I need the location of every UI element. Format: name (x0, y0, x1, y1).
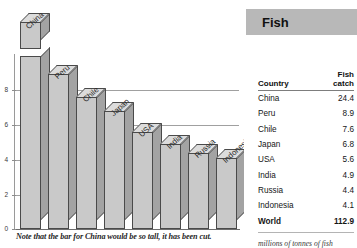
ytick-label-6: 6 (0, 121, 8, 128)
cell-country: Russia (258, 186, 320, 195)
bar-front (160, 144, 181, 229)
bar-front (216, 158, 237, 229)
ytick-label-8: 8 (0, 86, 8, 93)
fish-catch-table: Country Fish catch China 24.4 Peru 8.9 C… (258, 62, 354, 248)
bar-peru (48, 74, 69, 229)
ytick-mark-2 (12, 195, 16, 196)
bar-usa (132, 132, 153, 229)
bar-front (20, 56, 41, 229)
column-header-fish-catch: Fish catch (320, 70, 354, 88)
cell-country: China (258, 94, 320, 103)
ytick-mark-0 (12, 229, 16, 230)
cell-catch: 4.9 (320, 171, 354, 180)
bar-front (48, 74, 69, 229)
bar-front (104, 111, 125, 229)
cell-catch: 4.4 (320, 186, 354, 195)
bar-russia (188, 153, 209, 229)
panel-title-bar: Fish (246, 9, 357, 35)
cell-country: Peru (258, 109, 320, 118)
y-axis-line (14, 54, 15, 229)
cell-catch: 24.4 (320, 94, 354, 103)
cell-country: USA (258, 155, 320, 164)
column-header-fish-catch-line1: Fish (320, 70, 354, 79)
ytick-label-0: 0 (0, 225, 8, 232)
cell-country: Chile (258, 125, 320, 134)
ytick-mark-8 (12, 90, 16, 91)
bar-indonesia (216, 158, 237, 229)
cell-catch: 4.1 (320, 201, 354, 210)
chart-plot-area: 8 6 4 2 0 (14, 8, 240, 228)
cell-country: Indonesia (258, 201, 320, 210)
bar-front (76, 97, 97, 229)
bar-chile (76, 97, 97, 229)
gridline-0-baseline (14, 229, 240, 230)
cell-catch: 6.8 (320, 140, 354, 149)
cell-catch-total: 112.9 (320, 217, 354, 226)
page-title: Fish (246, 15, 289, 30)
cell-country: Japan (258, 140, 320, 149)
chart-note-caption: Note that the bar for China would be so … (16, 232, 244, 241)
bar-india (160, 144, 181, 229)
table-row: India 4.9 (258, 167, 354, 182)
fish-statistics-panel: 8 6 4 2 0 (0, 0, 357, 248)
bar-front (188, 153, 209, 229)
table-row: China 24.4 (258, 91, 354, 106)
cell-catch: 8.9 (320, 109, 354, 118)
table-row: Indonesia 4.1 (258, 198, 354, 213)
table-row: Chile 7.6 (258, 122, 354, 137)
cell-country-total: World (258, 217, 320, 226)
table-header-row: Country Fish catch (258, 62, 354, 88)
bar-chart: 8 6 4 2 0 (0, 0, 244, 248)
column-header-country: Country (258, 79, 320, 88)
cell-catch: 5.6 (320, 155, 354, 164)
bar-front (132, 132, 153, 229)
ytick-label-2: 2 (0, 191, 8, 198)
cell-catch: 7.6 (320, 125, 354, 134)
cell-country: India (258, 171, 320, 180)
column-header-fish-catch-line2: catch (320, 79, 354, 88)
table-row: Peru 8.9 (258, 106, 354, 121)
table-footer-divider (258, 232, 354, 233)
data-table-panel: Fish Country Fish catch China 24.4 Peru … (244, 0, 357, 248)
table-footnote: millions of tonnes of fish (258, 239, 354, 248)
bar-china-body (20, 56, 41, 229)
table-row: Japan 6.8 (258, 137, 354, 152)
bar-japan (104, 111, 125, 229)
table-row: Russia 4.4 (258, 183, 354, 198)
table-row: USA 5.6 (258, 152, 354, 167)
ytick-mark-4 (12, 160, 16, 161)
ytick-label-4: 4 (0, 156, 8, 163)
ytick-mark-6 (12, 125, 16, 126)
table-row-total: World 112.9 (258, 213, 354, 228)
